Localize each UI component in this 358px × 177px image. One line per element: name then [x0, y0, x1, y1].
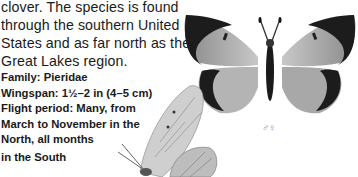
- side-antenna: [118, 144, 144, 170]
- antenna: [260, 19, 268, 41]
- description-line: clover. The species is found: [1, 0, 191, 16]
- butterfly-side-illustration: [110, 82, 220, 177]
- butterfly-body: [266, 41, 274, 101]
- description-line: Great Lakes region.: [1, 52, 191, 70]
- antenna: [272, 19, 280, 41]
- species-description: clover. The species is found through the…: [1, 0, 191, 70]
- sex-symbols: ♂♀: [262, 122, 275, 133]
- description-line: through the southern United: [1, 16, 191, 34]
- description-line: States and as far north as the: [1, 34, 191, 52]
